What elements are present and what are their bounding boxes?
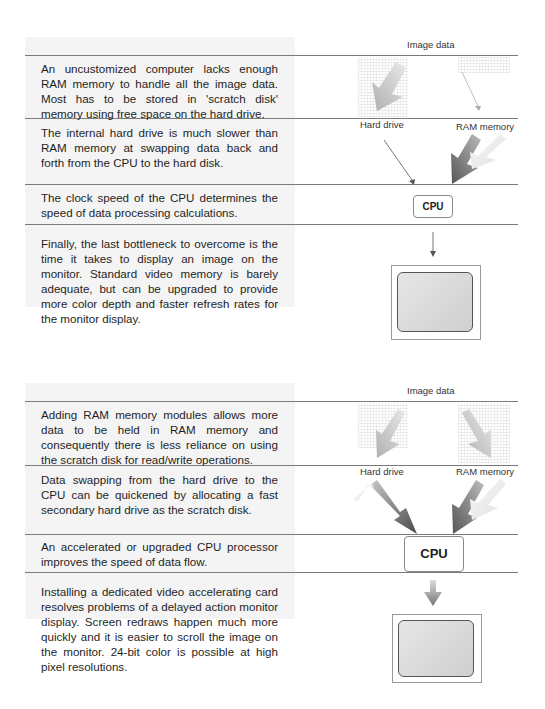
arrow-hard-drive-to-cpu-icon — [353, 480, 417, 534]
arrow-hard-drive-to-cpu-icon — [384, 140, 415, 185]
arrow-image-to-ram-icon — [462, 72, 481, 111]
arrow-cpu-to-monitor-icon — [430, 232, 436, 257]
arrow-ram-to-cpu-icon — [451, 134, 506, 184]
arrow-image-to-ram-icon — [462, 409, 491, 458]
arrow-image-to-hard-drive-icon — [372, 62, 406, 111]
arrow-cpu-to-monitor-icon — [424, 580, 442, 606]
arrow-ram-to-cpu-icon — [452, 479, 506, 534]
flow-arrows — [0, 0, 545, 709]
arrow-image-to-hard-drive-icon — [376, 409, 405, 458]
